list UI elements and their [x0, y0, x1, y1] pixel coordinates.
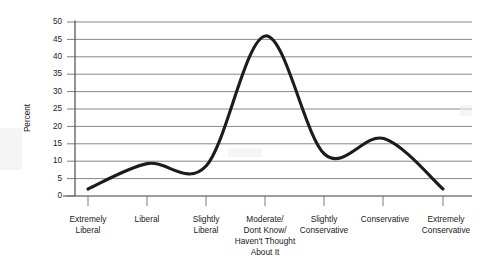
xtick-label-3-line-0: Moderate/: [246, 214, 284, 224]
xtick-label-3-line-1: Dont Know/: [244, 225, 288, 235]
ytick-label-5: 5: [57, 174, 62, 183]
xtick-label-2-line-0: Slightly: [193, 214, 221, 224]
xtick-label-1-line-0: Liberal: [135, 214, 160, 224]
xtick-label-slightly-conservative: Slightly Conservative: [300, 214, 349, 235]
xtick-label-5-line-0: Conservative: [361, 214, 410, 224]
xtick-label-4-line-1: Conservative: [300, 225, 349, 235]
ytick-label-45: 45: [53, 35, 63, 44]
xtick-label-0-line-1: Liberal: [76, 225, 101, 235]
xtick-label-2-line-1: Liberal: [194, 225, 219, 235]
percent-distribution-curve: [88, 36, 443, 189]
xtick-label-4-line-0: Slightly: [311, 214, 339, 224]
ytick-label-40: 40: [53, 52, 63, 61]
y-tick-marks: [67, 22, 75, 196]
ytick-label-20: 20: [53, 122, 63, 131]
ytick-label-50: 50: [53, 17, 63, 26]
ytick-label-30: 30: [53, 87, 63, 96]
ytick-label-25: 25: [53, 104, 63, 113]
xtick-label-conservative: Conservative: [361, 214, 410, 224]
xtick-label-6-line-1: Conservative: [422, 225, 471, 235]
gridlines: [75, 22, 472, 179]
xtick-label-3-line-3: About It: [251, 247, 280, 257]
xtick-label-6-line-0: Extremely: [428, 214, 466, 224]
xtick-label-3-line-2: Haven't Thought: [235, 236, 296, 246]
chart-canvas: 50 45 40 35 30 25 20 15 10 5 0 Percent: [0, 0, 494, 264]
ideology-distribution-chart: 50 45 40 35 30 25 20 15 10 5 0 Percent: [0, 0, 494, 264]
ytick-label-0: 0: [57, 191, 62, 200]
ytick-label-35: 35: [53, 69, 63, 78]
ytick-label-10: 10: [53, 156, 63, 165]
xtick-label-0-line-0: Extremely: [70, 214, 108, 224]
ytick-label-15: 15: [53, 139, 63, 148]
y-axis-title: Percent: [23, 103, 32, 132]
xtick-label-moderate: Moderate/ Dont Know/ Haven't Thought Abo…: [235, 214, 296, 257]
xtick-label-slightly-liberal: Slightly Liberal: [193, 214, 221, 235]
xtick-label-extremely-liberal: Extremely Liberal: [70, 214, 108, 235]
xtick-label-liberal: Liberal: [135, 214, 160, 224]
xtick-label-extremely-conservative: Extremely Conservative: [422, 214, 471, 235]
y-tick-labels: 50 45 40 35 30 25 20 15 10 5 0: [53, 17, 63, 200]
x-tick-marks: [88, 196, 443, 206]
x-tick-labels: Extremely Liberal Liberal Slightly Liber…: [70, 214, 471, 257]
